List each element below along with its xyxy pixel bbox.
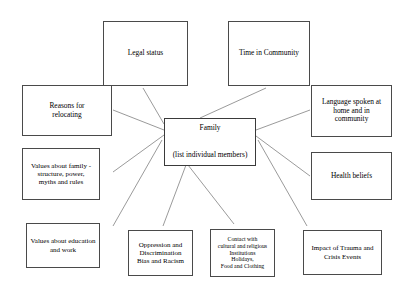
connector-language-spoken [256,110,310,130]
center-node-subtitle: (list individual members) [173,151,248,160]
node-trauma-impact-label: Impact of Trauma and Crisis Events [309,244,375,261]
node-time-in-community[interactable]: Time in Community [228,21,310,86]
node-cultural-contact-label: Contact with cultural and religious Inst… [216,236,269,270]
connector-health-beliefs [256,136,310,176]
connector-values-education [113,140,162,226]
node-health-beliefs-label: Health beliefs [329,172,374,181]
node-values-family-label: Values about family - structure, power, … [29,162,93,187]
node-reasons-relocating-label: Reasons for relocating [47,102,86,119]
node-oppression[interactable]: Oppression and Discrimination Bias and R… [128,230,193,276]
node-values-education-label: Values about education and work [29,237,98,254]
node-values-education[interactable]: Values about education and work [26,223,100,268]
node-language-spoken[interactable]: Language spoken at home and in community [311,85,392,137]
node-cultural-contact[interactable]: Contact with cultural and religious Inst… [210,229,275,277]
node-language-spoken-label: Language spoken at home and in community [320,98,383,124]
connector-reasons-relocating [113,110,164,130]
center-node-text: Family (list individual members) [171,105,250,179]
node-health-beliefs[interactable]: Health beliefs [311,152,392,200]
center-node-title: Family [173,124,248,133]
diagram-canvas: Family (list individual members) Legal s… [0,0,404,295]
node-values-family[interactable]: Values about family - structure, power, … [22,148,100,200]
connector-values-family [113,135,164,172]
node-legal-status-label: Legal status [126,49,166,58]
node-reasons-relocating[interactable]: Reasons for relocating [22,85,112,136]
node-trauma-impact[interactable]: Impact of Trauma and Crisis Events [303,230,382,275]
node-legal-status[interactable]: Legal status [103,21,188,86]
connector-trauma-impact [258,140,307,226]
node-time-in-community-label: Time in Community [237,49,301,58]
center-node-family[interactable]: Family (list individual members) [164,118,256,166]
node-oppression-label: Oppression and Discrimination Bias and R… [135,241,186,266]
connector-legal-status [143,88,164,124]
